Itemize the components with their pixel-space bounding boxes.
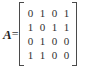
matrix-row: 1 0 1 1 — [24, 20, 72, 34]
matrix-cell: 1 — [48, 20, 60, 34]
matrix-cell: 1 — [36, 6, 48, 20]
matrix-cell: 0 — [36, 20, 48, 34]
equation-left-hand-side: A = — [3, 28, 18, 41]
matrix-cell: 0 — [24, 34, 36, 48]
right-square-bracket — [72, 2, 77, 66]
matrix-variable-label: A — [3, 28, 12, 41]
matrix-cell: 0 — [24, 6, 36, 20]
matrix-cell: 1 — [60, 6, 72, 20]
equals-sign: = — [12, 28, 19, 40]
matrix-cell: 0 — [48, 34, 60, 48]
matrix: 0 1 0 1 1 0 1 1 0 1 0 0 1 1 0 0 — [19, 2, 77, 66]
matrix-grid: 0 1 0 1 1 0 1 1 0 1 0 0 1 1 0 0 — [24, 2, 72, 66]
matrix-cell: 1 — [36, 34, 48, 48]
matrix-cell: 0 — [60, 48, 72, 62]
matrix-cell: 0 — [48, 6, 60, 20]
matrix-cell: 0 — [60, 34, 72, 48]
matrix-row: 1 1 0 0 — [24, 48, 72, 62]
matrix-cell: 1 — [24, 20, 36, 34]
matrix-row: 0 1 0 1 — [24, 6, 72, 20]
matrix-cell: 1 — [36, 48, 48, 62]
matrix-equation: A = 0 1 0 1 1 0 1 1 0 1 0 0 — [0, 0, 88, 68]
matrix-cell: 1 — [60, 20, 72, 34]
matrix-cell: 1 — [24, 48, 36, 62]
matrix-row: 0 1 0 0 — [24, 34, 72, 48]
matrix-cell: 0 — [48, 48, 60, 62]
